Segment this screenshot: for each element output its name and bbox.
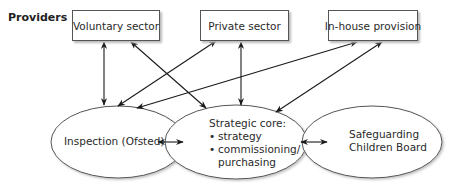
providers-label: Providers [8, 11, 67, 24]
inspection-label: Inspection (Ofsted) [64, 135, 164, 148]
safeguarding-line-2: Children Board [349, 141, 427, 154]
strategic-core-bullet-strategy: • strategy [209, 130, 300, 143]
strategic-core-bullets: • strategy • commissioning/ purchasing [209, 130, 300, 169]
private-sector-box: Private sector [200, 10, 289, 41]
safeguarding-label: Safeguarding Children Board [349, 128, 427, 154]
strategic-core-title: Strategic core: [209, 117, 300, 130]
providers-diagram: Providers Voluntary sector Private secto… [0, 0, 456, 188]
voluntary-sector-label: Voluntary sector [73, 20, 159, 32]
edge-private-inspection [118, 41, 216, 106]
strategic-core-bullet-commissioning: • commissioning/ [209, 143, 300, 156]
in-house-provision-label: In-house provision [325, 20, 421, 32]
voluntary-sector-box: Voluntary sector [72, 10, 160, 41]
strategic-core-bullet-purchasing: purchasing [209, 156, 300, 169]
edge-inhouse-strategic [276, 42, 382, 112]
edge-inhouse-inspection [137, 42, 357, 108]
safeguarding-line-1: Safeguarding [349, 128, 427, 141]
in-house-provision-box: In-house provision [328, 10, 418, 41]
bullet-icon: • [209, 130, 215, 143]
strategic-core-text: Strategic core: • strategy • commissioni… [209, 117, 300, 169]
bullet-icon: • [209, 143, 215, 156]
private-sector-label: Private sector [208, 20, 281, 32]
